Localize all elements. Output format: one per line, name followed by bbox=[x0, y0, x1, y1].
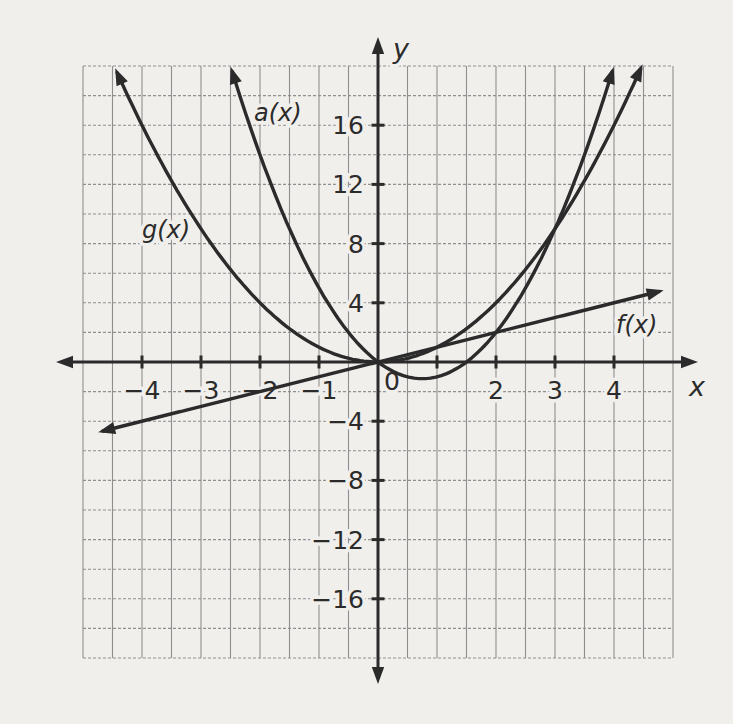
curve-label-g: g(x) bbox=[142, 216, 190, 244]
x-tick-label-2: 2 bbox=[488, 376, 504, 405]
y-tick-label-12: 12 bbox=[332, 170, 364, 199]
y-tick-label-16: 16 bbox=[332, 111, 364, 140]
y-tick-label-−8: −8 bbox=[327, 466, 364, 495]
y-tick-label-8: 8 bbox=[348, 230, 364, 259]
x-tick-label-4: 4 bbox=[606, 376, 622, 405]
function-graph: −4−3−2−12340161284−4−8−12−16xyf(x)g(x)a(… bbox=[0, 0, 733, 724]
x-tick-label-3: 3 bbox=[547, 376, 563, 405]
y-tick-label-−16: −16 bbox=[311, 585, 364, 614]
y-tick-label-−4: −4 bbox=[327, 407, 364, 436]
y-tick-label-−12: −12 bbox=[311, 526, 364, 555]
y-tick-label-4: 4 bbox=[348, 289, 364, 318]
graph-paper: −4−3−2−12340161284−4−8−12−16xyf(x)g(x)a(… bbox=[0, 0, 733, 724]
x-axis-label: x bbox=[688, 371, 706, 402]
curve-label-f: f(x) bbox=[616, 311, 657, 339]
y-axis-label: y bbox=[392, 33, 410, 64]
x-tick-label-−4: −4 bbox=[124, 376, 161, 405]
x-tick-label-−3: −3 bbox=[183, 376, 220, 405]
curve-label-a: a(x) bbox=[254, 99, 302, 127]
